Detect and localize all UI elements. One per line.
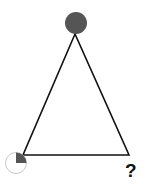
unknown-vertex-question-mark: ?: [125, 160, 137, 182]
triangle: [23, 34, 129, 155]
top-filled-circle: [65, 12, 87, 34]
bottom-left-quarter-circle: [6, 153, 27, 174]
